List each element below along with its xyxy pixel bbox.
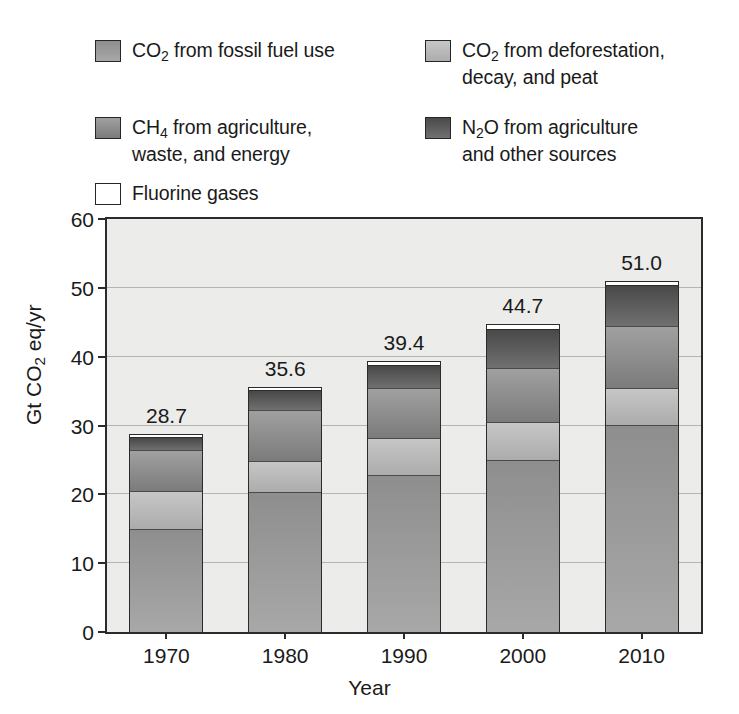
bar-group-2000: 44.7 bbox=[486, 219, 560, 632]
bar-segment-2000-co2_fossil[interactable] bbox=[487, 460, 559, 632]
y-tick-label-40: 40 bbox=[71, 346, 94, 370]
y-tick-label-20: 20 bbox=[71, 483, 94, 507]
y-tick-mark-10 bbox=[98, 562, 107, 564]
bar-segment-1980-co2_defor[interactable] bbox=[249, 461, 321, 492]
bar-stack-1980[interactable] bbox=[248, 387, 322, 632]
bar-segment-1970-co2_fossil[interactable] bbox=[130, 529, 202, 632]
bar-segment-2010-co2_fossil[interactable] bbox=[606, 425, 678, 632]
y-tick-mark-0 bbox=[98, 631, 107, 633]
y-tick-label-50: 50 bbox=[71, 277, 94, 301]
bar-segment-2000-co2_defor[interactable] bbox=[487, 422, 559, 460]
bar-group-1980: 35.6 bbox=[248, 219, 322, 632]
y-axis-title: Gt CO2 eq/yr bbox=[22, 305, 46, 425]
bar-group-2010: 51.0 bbox=[605, 219, 679, 632]
y-tick-label-60: 60 bbox=[71, 208, 94, 232]
bar-stack-1990[interactable] bbox=[367, 361, 441, 632]
bar-segment-2000-n2o[interactable] bbox=[487, 330, 559, 369]
bar-total-label-1990: 39.4 bbox=[351, 331, 457, 355]
x-axis-title: Year bbox=[0, 676, 739, 700]
bar-stack-1970[interactable] bbox=[129, 434, 203, 632]
chart-area: Gt CO2 eq/yr 010203040506028.735.639.444… bbox=[0, 0, 739, 714]
x-tick-mark-1970 bbox=[165, 632, 167, 639]
x-tick-label-1990: 1990 bbox=[351, 644, 457, 668]
bar-segment-2010-n2o[interactable] bbox=[606, 286, 678, 325]
bar-group-1970: 28.7 bbox=[129, 219, 203, 632]
bar-total-label-2000: 44.7 bbox=[470, 294, 576, 318]
x-tick-label-1980: 1980 bbox=[232, 644, 338, 668]
y-tick-mark-20 bbox=[98, 493, 107, 495]
bar-group-1990: 39.4 bbox=[367, 219, 441, 632]
bar-segment-1990-ch4[interactable] bbox=[368, 388, 440, 438]
y-tick-mark-50 bbox=[98, 287, 107, 289]
y-tick-mark-40 bbox=[98, 356, 107, 358]
bar-segment-1980-co2_fossil[interactable] bbox=[249, 492, 321, 632]
y-tick-label-30: 30 bbox=[71, 415, 94, 439]
bar-total-label-1970: 28.7 bbox=[113, 404, 219, 428]
bar-segment-1990-co2_defor[interactable] bbox=[368, 438, 440, 475]
bar-total-label-1980: 35.6 bbox=[232, 357, 338, 381]
x-tick-mark-1980 bbox=[284, 632, 286, 639]
bar-segment-1980-ch4[interactable] bbox=[249, 410, 321, 461]
bar-segment-1970-co2_defor[interactable] bbox=[130, 491, 202, 529]
x-tick-label-2000: 2000 bbox=[470, 644, 576, 668]
bar-segment-1970-n2o[interactable] bbox=[130, 438, 202, 450]
bar-segment-1970-ch4[interactable] bbox=[130, 450, 202, 491]
x-tick-mark-2000 bbox=[522, 632, 524, 639]
bar-segment-1990-n2o[interactable] bbox=[368, 366, 440, 388]
y-tick-mark-60 bbox=[98, 218, 107, 220]
y-tick-label-10: 10 bbox=[71, 552, 94, 576]
bar-stack-2000[interactable] bbox=[486, 324, 560, 632]
bar-segment-2010-co2_defor[interactable] bbox=[606, 388, 678, 426]
y-tick-mark-30 bbox=[98, 425, 107, 427]
bar-total-label-2010: 51.0 bbox=[589, 251, 695, 275]
bar-stack-2010[interactable] bbox=[605, 281, 679, 632]
x-tick-mark-1990 bbox=[403, 632, 405, 639]
x-tick-label-2010: 2010 bbox=[589, 644, 695, 668]
x-tick-label-1970: 1970 bbox=[113, 644, 219, 668]
bar-segment-1980-n2o[interactable] bbox=[249, 391, 321, 410]
plot-frame: 010203040506028.735.639.444.751.0 bbox=[105, 217, 703, 634]
x-tick-mark-2010 bbox=[641, 632, 643, 639]
bar-segment-2010-ch4[interactable] bbox=[606, 326, 678, 388]
bar-segment-2000-ch4[interactable] bbox=[487, 368, 559, 422]
y-tick-label-0: 0 bbox=[82, 621, 94, 645]
bar-segment-1990-co2_fossil[interactable] bbox=[368, 475, 440, 632]
